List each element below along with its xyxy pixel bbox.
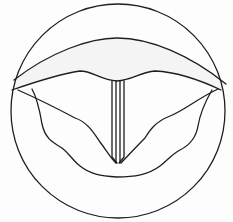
diagram-canvas: larynx-vocal-folds-view <box>0 0 233 222</box>
larynx-diagram <box>0 0 233 222</box>
false-vocal-fold-contour <box>32 89 212 177</box>
outer-ring <box>11 4 225 218</box>
true-vocal-fold-right <box>121 89 218 163</box>
epiglottis-shading <box>12 38 226 90</box>
